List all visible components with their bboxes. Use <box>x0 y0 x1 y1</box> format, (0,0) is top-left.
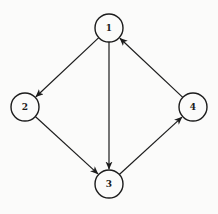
edge-3-4 <box>119 117 182 174</box>
node-label-1: 1 <box>106 23 112 33</box>
node-label-2: 2 <box>22 102 28 112</box>
node-label-4: 4 <box>190 102 196 112</box>
node-1: 1 <box>95 14 123 42</box>
graph-diagram: 1234 <box>0 0 218 214</box>
node-label-3: 3 <box>106 179 112 189</box>
node-2: 2 <box>11 93 39 121</box>
edge-1-2 <box>36 38 99 97</box>
node-3: 3 <box>95 170 123 198</box>
edges-layer <box>35 38 182 175</box>
node-4: 4 <box>179 93 207 121</box>
edge-4-1 <box>120 38 183 97</box>
edge-2-3 <box>35 116 98 173</box>
directed-graph-svg: 1234 <box>0 0 218 214</box>
